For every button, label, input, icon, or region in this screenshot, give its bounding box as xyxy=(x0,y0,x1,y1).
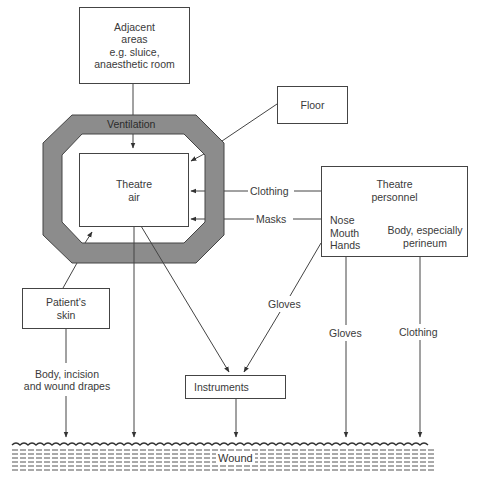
theatre-air-line-1: Theatre xyxy=(116,178,152,191)
adjacent-areas-line-1: Adjacent xyxy=(114,21,155,34)
wound-label: Wound xyxy=(216,452,255,464)
theatre-personnel-title-2: personnel xyxy=(322,191,467,204)
theatre-air-line-2: air xyxy=(128,191,140,204)
adjacent-areas-box: Adjacent areas e.g. sluice, anaesthetic … xyxy=(79,7,190,84)
patients-skin-line-2: skin xyxy=(57,309,76,322)
personnel-mouth: Mouth xyxy=(330,227,360,240)
edge-label-skin-wound-line-1: Body, incision xyxy=(22,368,112,380)
edge-label-gloves-wound: Gloves xyxy=(329,327,362,339)
personnel-body-line-2: perineum xyxy=(384,237,466,250)
edge-label-skin-wound-line-2: and wound drapes xyxy=(22,380,112,392)
edge-label-gloves-instruments: Gloves xyxy=(268,298,301,310)
floor-box: Floor xyxy=(277,86,348,124)
instruments-label: Instruments xyxy=(194,381,249,394)
edge-label-clothing-air: Clothing xyxy=(250,185,289,197)
edge-label-masks: Masks xyxy=(256,213,286,225)
ventilation-label: Ventilation xyxy=(107,118,155,130)
edge-label-clothing-wound: Clothing xyxy=(399,326,438,338)
instruments-box: Instruments xyxy=(185,375,286,399)
adjacent-areas-line-3: e.g. sluice, xyxy=(109,46,159,59)
patients-skin-box: Patient's skin xyxy=(22,288,110,329)
floor-label: Floor xyxy=(301,99,325,112)
theatre-personnel-title-1: Theatre xyxy=(322,178,467,191)
personnel-nose: Nose xyxy=(330,214,360,227)
personnel-hands: Hands xyxy=(330,239,360,252)
wound-contamination-diagram: Adjacent areas e.g. sluice, anaesthetic … xyxy=(0,0,482,482)
adjacent-areas-line-2: areas xyxy=(121,33,147,46)
personnel-body-line-1: Body, especially xyxy=(384,224,466,237)
theatre-air-box: Theatre air xyxy=(79,153,189,227)
edge-label-skin-wound: Body, incision and wound drapes xyxy=(22,368,112,392)
wound-surface xyxy=(12,443,428,445)
theatre-personnel-box: Theatre personnel Nose Mouth Hands Body,… xyxy=(321,166,468,257)
patients-skin-line-1: Patient's xyxy=(46,296,86,309)
adjacent-areas-line-4: anaesthetic room xyxy=(94,58,175,71)
